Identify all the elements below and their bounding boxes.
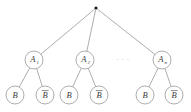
root-to-level1-edges: [41, 9, 155, 54]
branch-edge: [37, 69, 43, 87]
node-subscript-1: 1: [37, 60, 40, 65]
node-an: An: [153, 51, 171, 69]
branch-edge: [19, 68, 29, 87]
node-label-b: B: [96, 90, 101, 100]
node-label-an: A: [157, 54, 164, 64]
node-b-complement: B: [36, 86, 54, 104]
branch-edge: [88, 68, 95, 86]
root-to-a1-edge: [41, 9, 95, 54]
branch-edge: [165, 69, 171, 87]
tree-diagram-figure: A1A2An BBBBBB · · ·: [0, 0, 191, 112]
node-label-b: B: [66, 90, 71, 100]
node-label-b: B: [171, 90, 176, 100]
node-label-b: B: [12, 90, 17, 100]
node-b: B: [136, 86, 154, 104]
node-b-complement: B: [165, 86, 183, 104]
node-label-a1: A: [29, 54, 36, 64]
branch-edge: [73, 68, 82, 87]
root-dot-icon: [94, 6, 97, 9]
level1-to-level2-edges: [19, 68, 171, 87]
level1-node-group: A1A2An: [25, 51, 171, 69]
tree-diagram-canvas: A1A2An BBBBBB · · ·: [0, 0, 191, 112]
node-a1: A1: [25, 51, 43, 69]
node-label-b: B: [42, 90, 47, 100]
root-to-a2-edge: [87, 10, 96, 51]
root-to-an-edge: [98, 9, 155, 54]
node-b: B: [6, 86, 24, 104]
node-a2: A2: [76, 51, 94, 69]
level2-node-group: BBBBBB: [6, 86, 183, 104]
node-b: B: [60, 86, 78, 104]
root-node: [94, 6, 97, 9]
node-label-b: B: [142, 90, 147, 100]
ellipsis-label: · · ·: [117, 56, 130, 64]
node-label-a2: A: [80, 54, 87, 64]
node-b-complement: B: [90, 86, 108, 104]
branch-edge: [149, 68, 158, 87]
